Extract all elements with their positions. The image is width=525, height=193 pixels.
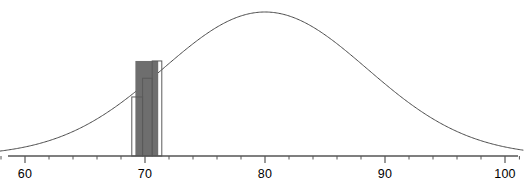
x-axis-tick-label: 80 — [258, 167, 272, 181]
x-axis-tick-label: 70 — [138, 167, 152, 181]
chart-container: 60708090100 — [0, 0, 525, 193]
normal-density-curve — [0, 12, 523, 153]
x-axis-tick-label: 90 — [378, 167, 392, 181]
shaded-region — [135, 61, 158, 156]
x-axis — [0, 156, 519, 163]
x-axis-ticks — [0, 156, 519, 163]
x-axis-tick-label: 60 — [18, 167, 32, 181]
x-axis-tick-label: 100 — [494, 167, 515, 181]
chart-plot-area — [0, 0, 525, 193]
